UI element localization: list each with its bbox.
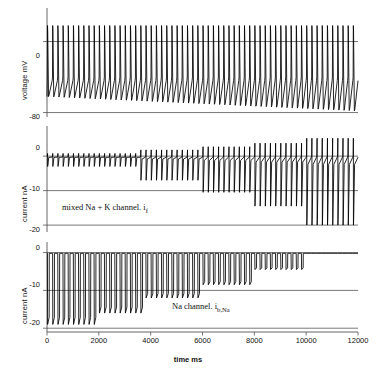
if-panel-ytick-1: -10 (14, 184, 40, 193)
voltage-trace-plot (0, 8, 376, 120)
ibna-panel-ylabel: current nA (20, 258, 29, 324)
x-axis-tick-12000: 12000 (336, 336, 376, 345)
ibna-current-panel: current nA 0 -10 -20 Na channel. ib,Na (0, 242, 376, 342)
if-panel-annotation-text: mixed Na + K channel. i (62, 202, 146, 212)
ibna-panel-ytick-2: -20 (14, 318, 40, 327)
voltage-panel-ylabel: voltage mV (20, 30, 29, 100)
x-axis-tick-0: 0 (25, 336, 69, 345)
ibna-panel-annotation: Na channel. ib,Na (172, 301, 230, 313)
if-panel-annotation: mixed Na + K channel. if (62, 202, 148, 214)
ibna-panel-ytick-0: 0 (14, 243, 40, 252)
figure-container: voltage mV 0 -80 current nA 0 -10 -20 mi… (0, 0, 376, 374)
x-axis: 020004000600080001000012000 time ms (0, 336, 376, 374)
ibna-trace-plot (0, 242, 376, 342)
x-axis-label: time ms (0, 355, 376, 364)
voltage-panel: voltage mV 0 -80 (0, 8, 376, 120)
if-trace-plot (0, 126, 376, 238)
if-current-panel: current nA 0 -10 -20 mixed Na + K channe… (0, 126, 376, 238)
x-axis-tick-8000: 8000 (232, 336, 276, 345)
ibna-panel-annotation-text: Na channel. i (172, 301, 217, 311)
ibna-panel-annotation-subscript: b,Na (217, 306, 230, 313)
x-axis-tick-2000: 2000 (77, 336, 121, 345)
voltage-panel-ytick-0: 0 (14, 51, 40, 60)
ibna-panel-ytick-1: -10 (14, 280, 40, 289)
voltage-panel-ytick-1: -80 (14, 112, 40, 121)
if-panel-ytick-0: 0 (14, 143, 40, 152)
x-axis-tick-4000: 4000 (129, 336, 173, 345)
x-axis-tick-6000: 6000 (181, 336, 225, 345)
if-panel-annotation-subscript: f (146, 207, 148, 214)
if-panel-ytick-2: -20 (14, 225, 40, 234)
x-axis-tick-10000: 10000 (284, 336, 328, 345)
